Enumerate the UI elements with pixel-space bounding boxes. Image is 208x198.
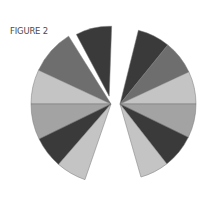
left-fan <box>31 26 112 179</box>
fan-pie-chart <box>0 0 208 198</box>
right-fan <box>120 30 196 177</box>
